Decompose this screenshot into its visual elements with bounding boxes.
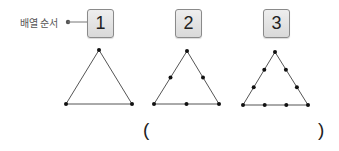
- sequence-box-2: 2: [175, 9, 202, 38]
- triangle-2: [152, 49, 221, 106]
- triangle-1: [64, 48, 134, 106]
- sequence-box-1: 1: [87, 9, 114, 38]
- answer-close-paren: ): [318, 119, 324, 141]
- sequence-box-3: 3: [263, 9, 290, 38]
- label-leader: [66, 20, 87, 24]
- triangle-3: [241, 50, 310, 107]
- answer-open-paren: (: [143, 119, 149, 141]
